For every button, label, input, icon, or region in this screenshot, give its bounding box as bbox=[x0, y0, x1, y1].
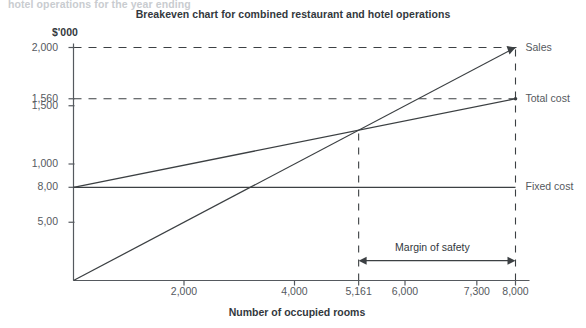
series-line-total-cost bbox=[74, 99, 516, 188]
series-label-sales: Sales bbox=[526, 41, 552, 53]
y-axis-tick-label: 1,000 bbox=[12, 157, 58, 169]
y-axis-tick-label: 1,500 bbox=[12, 99, 58, 111]
y-axis-tick-label-text: 1,000 bbox=[12, 157, 58, 169]
y-axis-tick-label: 5,00 bbox=[12, 215, 58, 227]
x-axis-tick-label: 8,000 bbox=[486, 285, 546, 297]
y-axis-tick-label-text: 8,00 bbox=[12, 180, 58, 192]
x-axis-tick-label: 2,000 bbox=[154, 285, 214, 297]
y-axis-tick-label: 8,00 bbox=[12, 180, 58, 192]
y-axis-tick-label: 2,000 bbox=[12, 41, 58, 53]
series-label-fixed-cost: Fixed cost bbox=[526, 180, 574, 192]
plot-area bbox=[0, 0, 586, 328]
margin-of-safety-label: Margin of safety bbox=[395, 241, 470, 253]
margin-of-safety-arrowhead-right bbox=[508, 257, 516, 265]
y-axis-tick-label-text: 1,500 bbox=[12, 99, 58, 111]
total-cost-endpoint-marker bbox=[514, 97, 518, 101]
y-axis-tick-label-text: 5,00 bbox=[12, 215, 58, 227]
series-label-total-cost: Total cost bbox=[526, 92, 570, 104]
breakeven-chart: hotel operations for the year ending Bre… bbox=[0, 0, 586, 328]
y-axis-tick-label-text: 2,000 bbox=[12, 41, 58, 53]
margin-of-safety-arrowhead-left bbox=[359, 257, 367, 265]
x-axis-tick-label: 6,000 bbox=[375, 285, 435, 297]
x-axis-tick-label: 4,000 bbox=[265, 285, 325, 297]
